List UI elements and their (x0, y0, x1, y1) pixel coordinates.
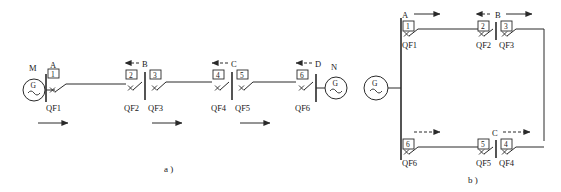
breaker-qf6[interactable]: 6 QF6 (295, 70, 313, 113)
breaker-qf3-label: QF3 (148, 103, 163, 113)
caption-b: b ) (468, 175, 478, 185)
breaker-qf5-number: 5 (240, 71, 244, 80)
diagram-a: G M 1 QF1 A B 2 QF2 (23, 59, 347, 174)
caption-a: a ) (164, 164, 173, 174)
diagram-b-breaker-qf3[interactable]: 3 QF3 (499, 21, 516, 50)
point-d-label: D (315, 59, 321, 69)
breaker-qf5[interactable]: 5 QF5 (235, 70, 253, 113)
source-m-label: M (29, 63, 37, 73)
point-c-label: C (231, 59, 237, 69)
breaker-qf1[interactable]: 1 QF1 (46, 69, 66, 113)
breaker-qf4[interactable]: 4 QF4 (211, 70, 229, 113)
diagram-b-breaker-qf1-number: 1 (406, 22, 410, 31)
diagram-b-breaker-qf3-number: 3 (504, 22, 508, 31)
diagram-b: G A 1 QF1 B 2 QF2 3 (364, 10, 544, 185)
diagram-b-breaker-qf5[interactable]: 5 QF5 (476, 139, 493, 168)
diagram-b-breaker-qf4[interactable]: 4 QF4 (499, 139, 516, 168)
breaker-qf5-label: QF5 (235, 103, 250, 113)
diagram-b-source-glyph-g: G (372, 79, 378, 88)
source-m-glyph-g: G (31, 81, 37, 90)
source-n-glyph-g: G (333, 79, 339, 88)
diagram-b-breaker-qf6-label: QF6 (402, 158, 417, 168)
breaker-qf2-label: QF2 (124, 103, 139, 113)
breaker-qf3[interactable]: 3 QF3 (148, 70, 166, 113)
diagram-b-breaker-qf2-label: QF2 (476, 40, 491, 50)
breaker-qf4-number: 4 (216, 71, 220, 80)
breaker-qf2-number: 2 (129, 71, 133, 80)
diagram-b-source-symbol: G (364, 76, 388, 100)
diagram-b-breaker-qf6-number: 6 (406, 140, 410, 149)
diagram-b-breaker-qf3-label: QF3 (499, 40, 514, 50)
figure-canvas: G M 1 QF1 A B 2 QF2 (0, 0, 561, 192)
diagram-b-breaker-qf5-number: 5 (481, 140, 485, 149)
breaker-qf1-number: 1 (51, 70, 55, 79)
source-n-symbol: G (325, 77, 347, 99)
breaker-qf3-number: 3 (153, 71, 157, 80)
breaker-qf6-number: 6 (300, 71, 304, 80)
source-n-label: N (331, 62, 337, 72)
source-m-symbol: G (23, 79, 45, 101)
breaker-qf4-label: QF4 (211, 103, 227, 113)
diagram-b-breaker-qf4-label: QF4 (499, 158, 515, 168)
breaker-qf6-label: QF6 (295, 103, 310, 113)
diagram-b-breaker-qf4-number: 4 (504, 140, 508, 149)
breaker-qf1-label: QF1 (46, 103, 61, 113)
diagram-b-breaker-qf6[interactable]: 6 QF6 (402, 139, 418, 168)
diagram-b-breaker-qf2-number: 2 (481, 22, 485, 31)
diagram-b-breaker-qf2[interactable]: 2 QF2 (476, 21, 493, 50)
diagram-b-breaker-qf5-label: QF5 (476, 158, 491, 168)
breaker-qf2[interactable]: 2 QF2 (124, 70, 142, 113)
diagram-b-point-b-label: B (495, 10, 501, 20)
diagram-b-breaker-qf1-label: QF1 (402, 40, 417, 50)
diagram-b-point-c-label: C (492, 128, 498, 138)
point-a-label: A (50, 60, 57, 70)
diagram-b-breaker-qf1[interactable]: 1 QF1 (402, 21, 418, 50)
diagram-b-point-a-label: A (402, 10, 409, 20)
point-b-label: B (142, 59, 148, 69)
